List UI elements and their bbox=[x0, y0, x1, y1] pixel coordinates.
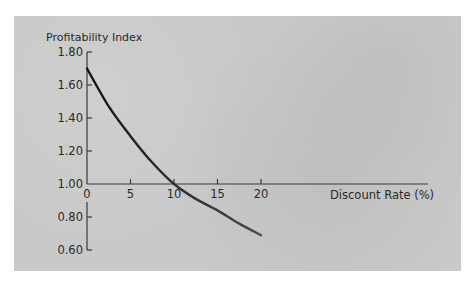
y-axis: 1.801.601.401.201.000.800.60 bbox=[57, 45, 92, 257]
y-tick-label: 1.80 bbox=[57, 45, 83, 59]
x-tick-label: 0 bbox=[83, 187, 90, 201]
y-axis-title: Profitability Index bbox=[46, 31, 143, 44]
y-tick-label: 0.80 bbox=[57, 210, 83, 224]
pi-curve bbox=[87, 69, 261, 236]
profitability-index-chart: Profitability Index Discount Rate (%) 1.… bbox=[0, 0, 474, 282]
y-tick-label: 1.00 bbox=[57, 177, 83, 191]
y-tick-label: 0.60 bbox=[57, 243, 83, 257]
y-tick-label: 1.40 bbox=[57, 111, 83, 125]
y-tick-label: 1.20 bbox=[57, 144, 83, 158]
x-tick-label: 5 bbox=[127, 187, 134, 201]
x-axis-title: Discount Rate (%) bbox=[330, 188, 434, 202]
x-tick-label: 20 bbox=[254, 187, 269, 201]
x-tick-label: 15 bbox=[210, 187, 225, 201]
y-tick-label: 1.60 bbox=[57, 78, 83, 92]
